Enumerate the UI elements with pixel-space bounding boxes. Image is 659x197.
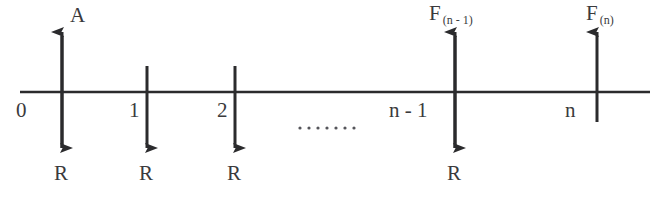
cash-flow-diagram: A F(n - 1) F(n) 0 1 2 n - 1 n R R R R — [0, 0, 659, 197]
tick-label-n-minus-1: n - 1 — [389, 100, 428, 121]
tick-label-0: 0 — [16, 100, 27, 121]
period-n-minus-1-down-arrow-label: R — [447, 163, 461, 184]
tick-label-n: n — [565, 100, 576, 121]
f-subscript: (n) — [600, 13, 614, 27]
period-n-minus-1-up-arrow-label: F(n - 1) — [429, 3, 471, 24]
f-subscript: (n - 1) — [443, 13, 473, 27]
period-2-down-arrow-label: R — [227, 163, 241, 184]
ellipsis-dots — [298, 126, 355, 129]
diagram-canvas — [0, 0, 659, 197]
f-symbol: F — [429, 1, 441, 25]
f-symbol: F — [586, 1, 598, 25]
period-1-down-arrow-label: R — [139, 163, 153, 184]
period-0-down-arrow-label: R — [54, 163, 68, 184]
tick-label-1: 1 — [129, 100, 140, 121]
tick-label-2: 2 — [217, 100, 228, 121]
period-0-up-arrow-label: A — [70, 5, 85, 26]
period-n-up-arrow-label: F(n) — [586, 3, 612, 24]
